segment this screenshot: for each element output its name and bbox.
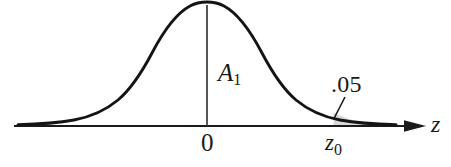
area-label-a1: A1 (218, 60, 241, 88)
axis-arrowhead-icon (404, 120, 426, 132)
critical-value-letter: z (325, 130, 334, 155)
critical-value-label: z0 (325, 131, 342, 158)
tail-probability-label: .05 (331, 72, 362, 96)
critical-value-subscript: 0 (334, 141, 342, 158)
area-label-a1-letter: A (218, 59, 233, 86)
normal-distribution-figure: A1 .05 0 z0 z (0, 0, 451, 167)
area-label-a1-subscript: 1 (233, 71, 241, 88)
x-axis-name-label: z (431, 112, 440, 136)
center-tick-label: 0 (201, 130, 214, 155)
